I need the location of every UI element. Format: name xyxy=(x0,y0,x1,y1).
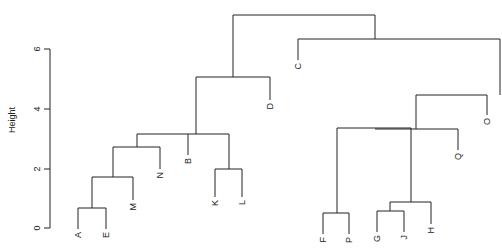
leaf-B: B xyxy=(183,158,193,164)
leaf-K: K xyxy=(210,200,220,206)
y-axis-label: Height xyxy=(7,106,17,133)
leaf-O: O xyxy=(482,118,492,125)
leaf-E: E xyxy=(101,232,111,238)
y-tick-6: 6 xyxy=(32,46,42,51)
dendrogram-branches xyxy=(78,15,500,234)
leaf-D: D xyxy=(265,103,275,110)
leaf-A: A xyxy=(73,232,83,238)
y-tick-2: 2 xyxy=(32,166,42,171)
y-tick-0: 0 xyxy=(32,225,42,230)
y-tick-4: 4 xyxy=(32,106,42,111)
leaf-M: M xyxy=(128,203,138,211)
leaf-labels: A E M N B K L D C F P G J H Q O xyxy=(73,63,492,244)
leaf-P: P xyxy=(344,237,354,243)
leaf-H: H xyxy=(426,227,436,234)
dendrogram-chart: 0 2 4 6 Height xyxy=(0,0,502,248)
leaf-L: L xyxy=(237,200,247,205)
leaf-N: N xyxy=(155,172,165,179)
y-axis: 0 2 4 6 Height xyxy=(7,46,50,230)
leaf-C: C xyxy=(293,63,303,70)
leaf-J: J xyxy=(399,235,409,240)
leaf-F: F xyxy=(318,237,328,243)
leaf-G: G xyxy=(372,235,382,242)
leaf-Q: Q xyxy=(453,153,463,160)
